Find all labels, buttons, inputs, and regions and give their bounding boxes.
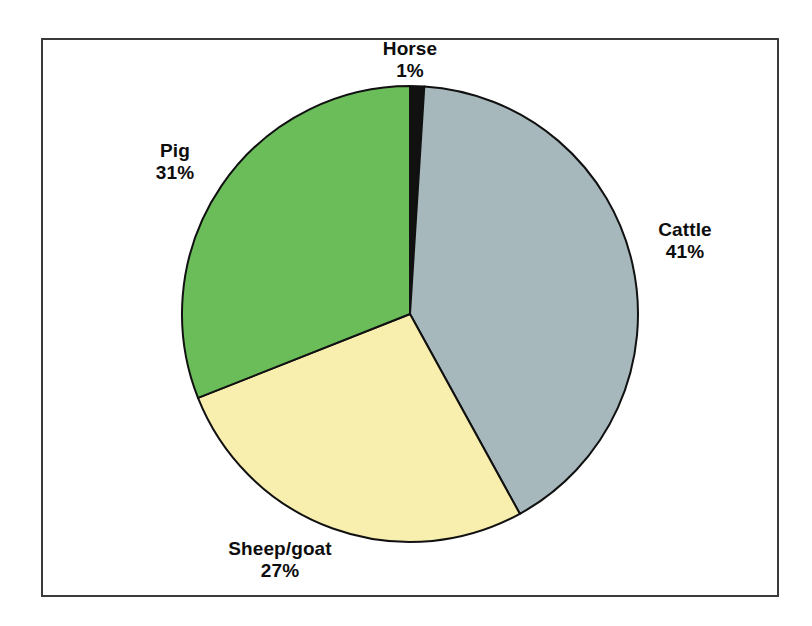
pie-chart-svg xyxy=(0,0,812,626)
slice-label-horse: Horse 1% xyxy=(315,38,505,82)
slice-label-pig-percent: 31% xyxy=(90,162,260,184)
slice-label-cattle-percent: 41% xyxy=(600,241,770,263)
slice-label-cattle-name: Cattle xyxy=(600,219,770,241)
slice-label-pig-name: Pig xyxy=(90,140,260,162)
slice-label-horse-name: Horse xyxy=(315,38,505,60)
pie-chart-plot-area: Horse 1% Cattle 41% Sheep/goat 27% Pig 3… xyxy=(0,0,812,626)
slice-label-sheep-goat: Sheep/goat 27% xyxy=(130,538,430,582)
slice-label-pig: Pig 31% xyxy=(90,140,260,184)
slice-label-horse-percent: 1% xyxy=(315,60,505,82)
slice-label-cattle: Cattle 41% xyxy=(600,219,770,263)
slice-label-sheep-goat-percent: 27% xyxy=(130,560,430,582)
slice-label-sheep-goat-name: Sheep/goat xyxy=(130,538,430,560)
